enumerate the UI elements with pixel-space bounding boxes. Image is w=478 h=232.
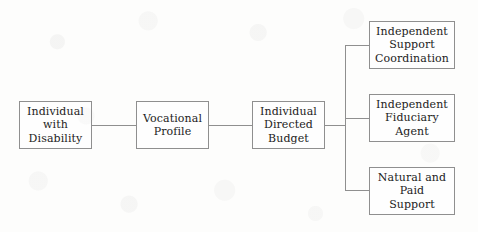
node-label: Independent Support Coordination: [372, 25, 452, 66]
node-vocational-profile: Vocational Profile: [136, 101, 209, 149]
node-label: Individual Directed Budget: [257, 105, 320, 146]
node-individual-with-disability: Individual with Disability: [19, 101, 92, 149]
flowchart-diagram: Individual with Disability Vocational Pr…: [0, 0, 478, 232]
node-label: Vocational Profile: [140, 112, 205, 139]
node-natural-and-paid-support: Natural and Paid Support: [369, 167, 455, 215]
node-label: Independent Fiduciary Agent: [373, 98, 451, 139]
node-independent-support-coordination: Independent Support Coordination: [369, 21, 455, 69]
node-independent-fiduciary-agent: Independent Fiduciary Agent: [369, 94, 455, 142]
node-individual-directed-budget: Individual Directed Budget: [252, 101, 325, 149]
node-label: Natural and Paid Support: [375, 171, 449, 212]
node-label: Individual with Disability: [24, 105, 87, 146]
